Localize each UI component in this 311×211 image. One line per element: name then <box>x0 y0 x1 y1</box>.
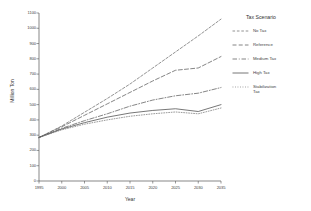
data-series-group <box>39 19 221 137</box>
x-axis-title: Year <box>39 196 221 202</box>
legend: Tax Scenario No TaxReferenceMedium TaxHi… <box>232 14 308 103</box>
legend-item-label: Reference <box>253 42 273 47</box>
legend-item-label: High Tax <box>253 70 270 75</box>
x-tick-marks <box>39 181 221 184</box>
y-tick-label: 300 <box>29 133 36 137</box>
x-tick-label: 2030 <box>194 186 203 190</box>
legend-line-swatch-icon <box>232 56 249 62</box>
x-tick-label: 2000 <box>57 186 66 190</box>
legend-item[interactable]: High Tax <box>232 70 308 76</box>
legend-line-swatch-icon <box>232 70 249 76</box>
legend-item[interactable]: No Tax <box>232 28 308 34</box>
y-tick-label: 600 <box>29 87 36 91</box>
series-line <box>39 19 221 137</box>
legend-item[interactable]: Medium Tax <box>232 56 308 62</box>
y-tick-marks <box>37 13 40 181</box>
y-tick-label: 500 <box>29 103 36 107</box>
series-line <box>39 57 221 138</box>
x-tick-label: 2015 <box>126 186 135 190</box>
series-line <box>39 108 221 137</box>
y-tick-label: 1000 <box>27 26 36 30</box>
y-tick-label: 800 <box>29 57 36 61</box>
legend-line-swatch-icon <box>232 28 249 34</box>
x-tick-label: 2005 <box>80 186 89 190</box>
chart-figure: 010020030040050060070080090010001100 199… <box>0 0 311 211</box>
axes-lines <box>39 13 221 181</box>
x-tick-label: 2035 <box>217 186 226 190</box>
y-tick-label: 200 <box>29 148 36 152</box>
legend-items: No TaxReferenceMedium TaxHigh TaxStabili… <box>232 28 308 95</box>
x-tick-label: 2010 <box>103 186 112 190</box>
x-tick-label: 1995 <box>35 186 44 190</box>
plot-area: 010020030040050060070080090010001100 199… <box>39 13 221 181</box>
legend-item[interactable]: Stabilization Tax <box>232 84 308 95</box>
y-tick-label: 900 <box>29 41 36 45</box>
legend-title: Tax Scenario <box>246 14 308 20</box>
x-tick-label: 2025 <box>171 186 180 190</box>
series-line <box>39 88 221 138</box>
legend-item-label: No Tax <box>253 28 266 33</box>
y-tick-label: 700 <box>29 72 36 76</box>
x-tick-label: 2020 <box>148 186 157 190</box>
y-tick-label: 100 <box>29 164 36 168</box>
series-line <box>39 105 221 138</box>
y-tick-label: 1100 <box>28 11 36 15</box>
legend-line-swatch-icon <box>232 42 249 48</box>
y-axis-title: Million Ton <box>9 61 15 121</box>
legend-item-label: Medium Tax <box>253 56 276 61</box>
legend-item[interactable]: Reference <box>232 42 308 48</box>
legend-item-label: Stabilization Tax <box>253 84 276 95</box>
legend-line-swatch-icon <box>232 84 249 90</box>
y-tick-label: 0 <box>34 179 36 183</box>
series-canvas <box>39 13 221 181</box>
y-tick-label: 400 <box>29 118 36 122</box>
